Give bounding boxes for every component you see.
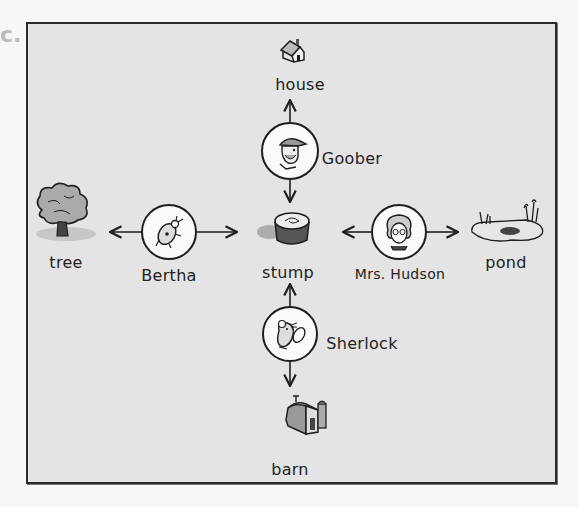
character-sherlock [262,306,318,362]
mouse-portrait-icon [271,315,309,353]
ladybug-portrait-icon [151,214,187,250]
character-hudson [371,204,427,260]
character-bertha [141,204,197,260]
character-label-bertha: Bertha [141,266,196,285]
woman-portrait-icon [380,212,418,252]
place-label-pond: pond [485,253,526,272]
character-goober [261,122,319,180]
farmer-portrait-icon [270,131,310,171]
place-label-barn: barn [271,460,309,479]
place-label-house: house [275,75,325,94]
stump-icon [255,210,315,252]
house-icon [278,36,308,64]
place-label-stump: stump [262,263,314,282]
barn-icon [280,394,332,440]
character-label-sherlock: Sherlock [326,334,397,353]
character-label-hudson: Mrs. Hudson [355,266,445,282]
tree-icon [30,180,100,242]
character-label-goober: Goober [322,149,382,168]
pond-icon [466,198,552,248]
place-label-tree: tree [49,253,82,272]
